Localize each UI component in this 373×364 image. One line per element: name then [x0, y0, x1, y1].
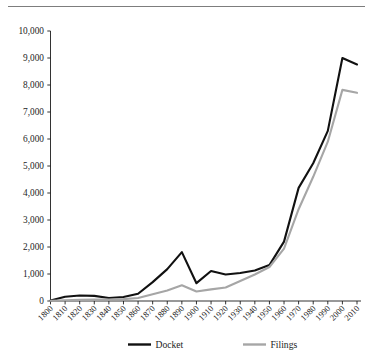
y-axis-tick-group: 01,0002,0003,0004,0005,0006,0007,0008,00… — [18, 26, 50, 306]
axis-lines-group — [51, 31, 362, 301]
x-axis-tick-label: 2010 — [342, 303, 361, 322]
y-axis-tick-label: 3,000 — [23, 215, 44, 225]
data-series-group — [51, 58, 358, 301]
y-axis-tick-label: 5,000 — [23, 161, 44, 171]
chart-canvas: 01,0002,0003,0004,0005,0006,0007,0008,00… — [0, 0, 373, 364]
y-axis-tick-label: 1,000 — [23, 269, 44, 279]
legend-label-docket: Docket — [156, 339, 184, 350]
series-line-filings — [51, 90, 358, 301]
y-axis-tick-label: 7,000 — [23, 107, 44, 117]
y-axis-tick-label: 2,000 — [23, 242, 44, 252]
y-axis-tick-label: 10,000 — [18, 26, 44, 36]
y-axis-tick-label: 6,000 — [23, 134, 44, 144]
figure-page: 01,0002,0003,0004,0005,0006,0007,0008,00… — [0, 0, 373, 364]
y-axis-tick-label: 4,000 — [23, 188, 44, 198]
chart-legend: DocketFilings — [128, 339, 297, 350]
legend-label-filings: Filings — [271, 339, 298, 350]
y-axis-tick-label: 8,000 — [23, 80, 44, 90]
y-axis-tick-label: 9,000 — [23, 53, 44, 63]
y-axis-tick-label: 0 — [39, 296, 44, 306]
x-axis-tick-group: 1800181018201830184018501860187018801890… — [36, 301, 362, 323]
line-chart-figure: 01,0002,0003,0004,0005,0006,0007,0008,00… — [0, 0, 373, 364]
